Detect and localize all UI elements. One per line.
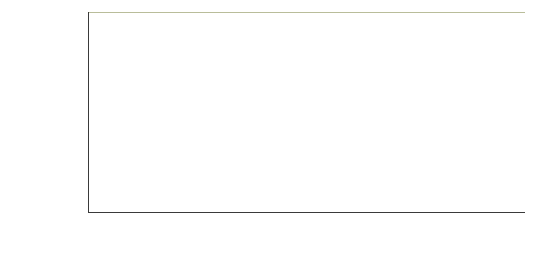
plot-top-border [89,12,525,13]
plot-area [89,12,525,212]
y-axis-title [15,0,55,153]
bar-chart [0,0,537,263]
x-axis-line [89,212,525,213]
